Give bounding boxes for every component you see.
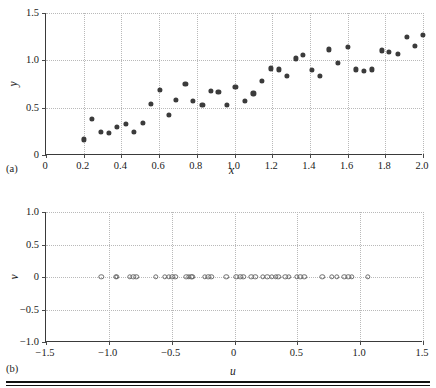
x-tick-mark bbox=[172, 341, 173, 345]
y-tick-mark bbox=[42, 60, 46, 61]
x-tick-mark bbox=[84, 154, 85, 158]
y-tick-mark bbox=[42, 277, 46, 278]
data-point bbox=[276, 67, 281, 72]
data-point bbox=[124, 122, 129, 127]
x-tick-mark bbox=[423, 341, 424, 345]
y-tick-label: 0 bbox=[11, 150, 39, 161]
data-point bbox=[361, 69, 366, 74]
y-tick-label: 0.5 bbox=[11, 102, 39, 113]
data-point bbox=[334, 274, 339, 279]
x-tick-mark bbox=[235, 341, 236, 345]
x-tick-mark bbox=[297, 341, 298, 345]
data-point bbox=[114, 274, 119, 279]
data-point bbox=[233, 84, 238, 89]
panel-a: y x (a) 00.20.40.60.81.01.21.41.61.82.00… bbox=[0, 0, 436, 180]
data-point bbox=[241, 274, 246, 279]
gridline-vertical bbox=[197, 13, 198, 154]
data-point bbox=[379, 48, 384, 53]
data-point bbox=[242, 98, 247, 103]
y-tick-mark bbox=[42, 342, 46, 343]
data-point bbox=[157, 87, 162, 92]
x-tick-label: −0.5 bbox=[161, 348, 180, 359]
x-tick-label: 0.6 bbox=[152, 161, 165, 172]
x-tick-label: 0 bbox=[231, 348, 236, 359]
x-tick-mark bbox=[385, 154, 386, 158]
y-tick-label: 0.5 bbox=[11, 239, 39, 250]
data-point bbox=[345, 44, 350, 49]
x-tick-label: −1.5 bbox=[35, 348, 54, 359]
x-tick-label: −1.0 bbox=[98, 348, 117, 359]
data-point bbox=[190, 98, 195, 103]
x-tick-mark bbox=[121, 154, 122, 158]
y-tick-label: 1.0 bbox=[11, 207, 39, 218]
x-tick-mark bbox=[235, 154, 236, 158]
y-tick-mark bbox=[42, 155, 46, 156]
x-tick-mark bbox=[310, 154, 311, 158]
x-tick-label: 1.0 bbox=[227, 161, 240, 172]
footer-rule-thick bbox=[6, 381, 430, 383]
data-point bbox=[386, 50, 391, 55]
footer-rule-thin bbox=[6, 385, 430, 386]
gridline-horizontal bbox=[46, 60, 422, 61]
gridline-horizontal bbox=[46, 108, 422, 109]
x-tick-label: 1.2 bbox=[265, 161, 278, 172]
y-tick-label: −0.5 bbox=[11, 304, 39, 315]
x-tick-mark bbox=[46, 154, 47, 158]
gridline-vertical bbox=[348, 13, 349, 154]
data-point bbox=[285, 73, 290, 78]
data-point bbox=[208, 89, 213, 94]
data-point bbox=[412, 44, 417, 49]
y-tick-label: −1.0 bbox=[11, 337, 39, 348]
figure-container: y x (a) 00.20.40.60.81.01.21.41.61.82.00… bbox=[0, 0, 436, 388]
data-point bbox=[216, 89, 221, 94]
data-point bbox=[209, 274, 214, 279]
x-axis-title-b: u bbox=[230, 365, 236, 377]
x-tick-label: 0.2 bbox=[76, 161, 89, 172]
data-point bbox=[320, 274, 325, 279]
data-point bbox=[259, 79, 264, 84]
data-point bbox=[140, 120, 145, 125]
gridline-vertical bbox=[84, 13, 85, 154]
data-point bbox=[395, 51, 400, 56]
gridline-vertical bbox=[159, 13, 160, 154]
y-tick-mark bbox=[42, 13, 46, 14]
panel-tag-b: (b) bbox=[6, 363, 18, 374]
y-tick-label: 1.5 bbox=[11, 8, 39, 19]
y-tick-mark bbox=[42, 108, 46, 109]
x-tick-label: 2.0 bbox=[415, 161, 428, 172]
x-tick-label: 1.6 bbox=[340, 161, 353, 172]
data-point bbox=[173, 274, 178, 279]
data-point bbox=[253, 274, 258, 279]
data-point bbox=[353, 67, 358, 72]
data-point bbox=[301, 53, 306, 58]
data-point bbox=[90, 116, 95, 121]
x-tick-label: 0 bbox=[42, 161, 47, 172]
gridline-vertical bbox=[423, 212, 424, 341]
y-tick-mark bbox=[42, 310, 46, 311]
data-point bbox=[336, 60, 341, 65]
gridline-horizontal bbox=[46, 212, 422, 213]
x-tick-label: 0.8 bbox=[189, 161, 202, 172]
gridline-horizontal bbox=[46, 13, 422, 14]
gridline-vertical bbox=[385, 13, 386, 154]
data-point bbox=[114, 124, 119, 129]
data-point bbox=[99, 274, 104, 279]
data-point bbox=[148, 101, 153, 106]
data-point bbox=[81, 137, 86, 142]
data-point bbox=[326, 47, 331, 52]
gridline-vertical bbox=[310, 13, 311, 154]
data-point bbox=[318, 73, 323, 78]
y-axis-title-a: y bbox=[7, 81, 19, 86]
data-point bbox=[276, 274, 281, 279]
panel-tag-a: (a) bbox=[6, 163, 18, 174]
plot-area-b bbox=[45, 212, 422, 342]
x-tick-mark bbox=[46, 341, 47, 345]
gridline-horizontal bbox=[46, 310, 422, 311]
x-tick-label: 1.4 bbox=[302, 161, 315, 172]
y-tick-label: 1.0 bbox=[11, 55, 39, 66]
x-tick-label: 0.4 bbox=[114, 161, 127, 172]
x-tick-mark bbox=[109, 341, 110, 345]
data-point bbox=[370, 67, 375, 72]
data-point bbox=[183, 81, 188, 86]
data-point bbox=[309, 68, 314, 73]
